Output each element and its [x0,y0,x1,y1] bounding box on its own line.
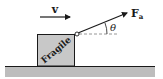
ground-surface [5,66,155,77]
velocity-label: v [51,3,59,16]
force-label-subscript: a [139,12,144,21]
attachment-point [75,32,79,36]
angle-label: θ [110,22,116,33]
velocity-vector: v [40,3,70,17]
physics-diagram: Fragile v Fa θ [0,0,163,79]
fragile-box: Fragile [38,35,75,67]
force-label: Fa [131,7,144,21]
angle-marker: θ [105,22,116,34]
force-label-main: F [131,7,139,20]
